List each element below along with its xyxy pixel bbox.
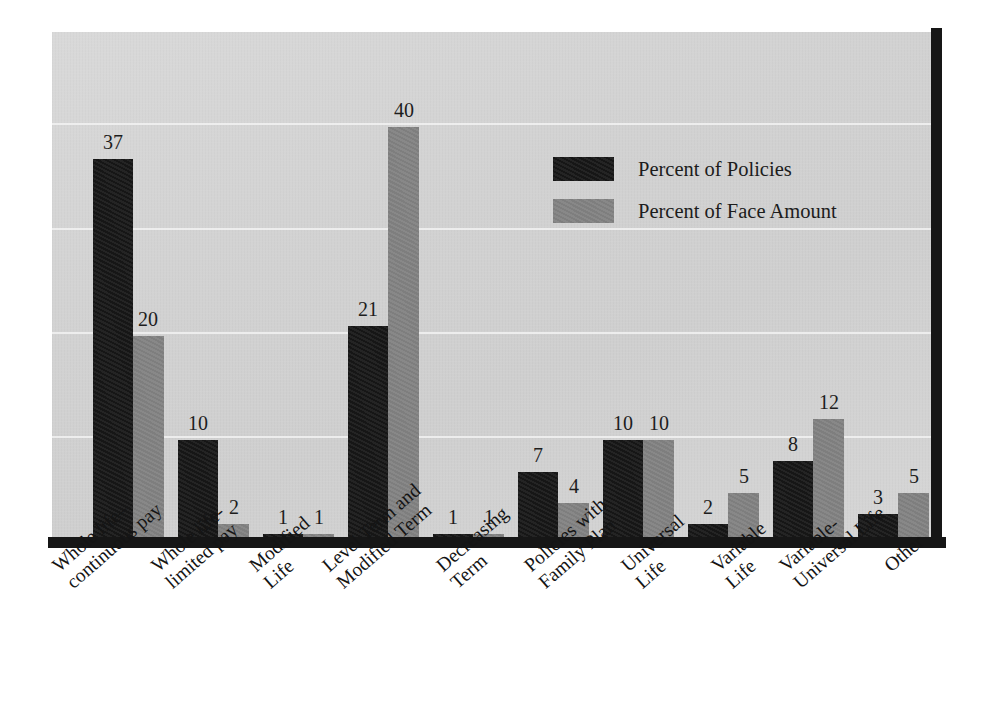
legend: Percent of Policies Percent of Face Amou…	[553, 148, 837, 232]
data-label-policies-1: 10	[168, 413, 228, 433]
data-label-policies-5: 7	[508, 445, 568, 465]
legend-label-percent-of-face-amount: Percent of Face Amount	[638, 200, 837, 223]
data-label-face-8: 12	[799, 392, 859, 412]
legend-item-percent-of-policies: Percent of Policies	[553, 148, 837, 190]
plot-area: 37 20 10 2 1 1 21 40 1 1 7 4 10 10 2 5 8…	[52, 32, 940, 545]
legend-item-percent-of-face-amount: Percent of Face Amount	[553, 190, 837, 232]
data-label-face-3: 40	[374, 100, 434, 120]
black-swatch-icon	[553, 157, 614, 181]
data-label-policies-0: 37	[83, 132, 143, 152]
legend-label-percent-of-policies: Percent of Policies	[638, 158, 792, 181]
gray-swatch-icon	[553, 199, 614, 223]
data-label-face-7: 5	[714, 466, 774, 486]
bar-policies-whole-life-continuous-pay	[93, 159, 133, 545]
data-label-policies-7: 2	[678, 497, 738, 517]
right-axis-line	[931, 28, 942, 543]
data-label-policies-3: 21	[338, 299, 398, 319]
data-label-face-6: 10	[629, 413, 689, 433]
data-label-policies-8: 8	[763, 434, 823, 454]
gridline-20	[52, 332, 940, 334]
x-axis-labels: Whole life– continuous pay Whole life- l…	[0, 548, 986, 702]
gridline-40	[52, 123, 940, 125]
bar-chart: 37 20 10 2 1 1 21 40 1 1 7 4 10 10 2 5 8…	[0, 0, 986, 702]
bar-face-amount-level-term-and-modified-term	[388, 127, 419, 545]
data-label-face-0: 20	[118, 309, 178, 329]
